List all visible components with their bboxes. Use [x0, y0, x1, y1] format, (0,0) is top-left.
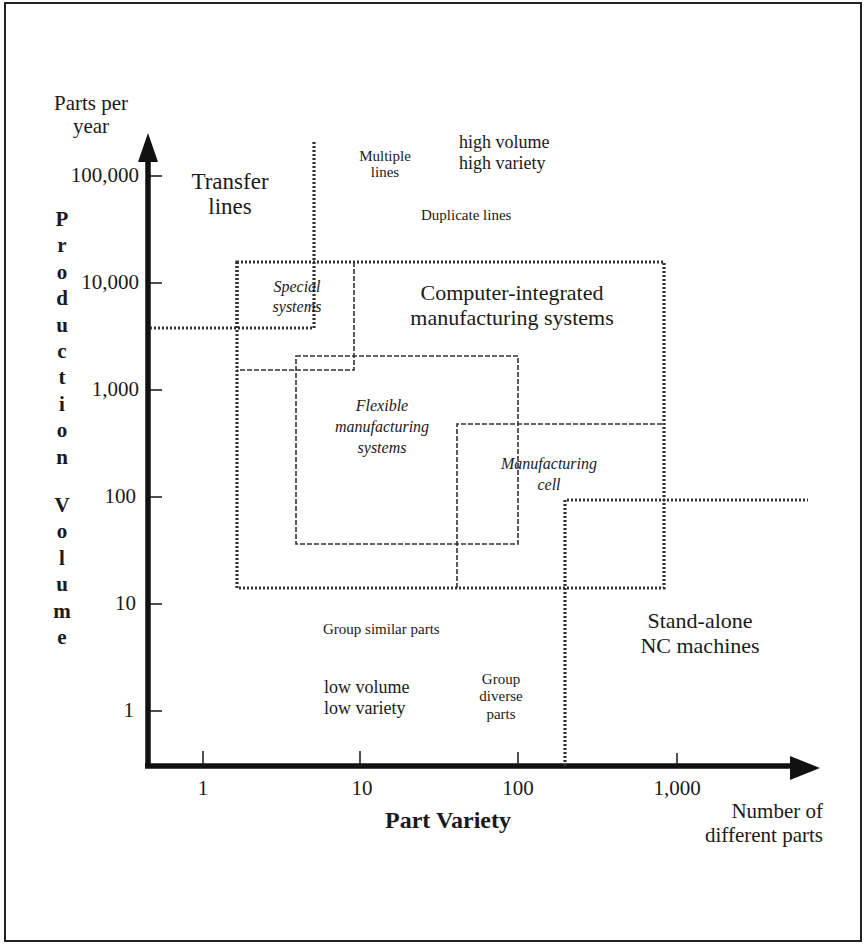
y-axis-title: P r o d u c t i o n V o l u m e — [52, 206, 72, 651]
y-tick-label: 10 — [115, 592, 136, 615]
y-axis-unit-label: Parts per year — [54, 92, 128, 137]
y-unit-line1: Parts per — [54, 92, 128, 115]
x-tick-label: 10 — [352, 777, 373, 800]
group-diverse-parts-label: Group diverse parts — [479, 671, 522, 723]
x-axis-arrow-icon — [790, 756, 820, 780]
group-similar-parts-label: Group similar parts — [323, 621, 440, 638]
mfg-cell-label: Manufacturing cell — [501, 454, 597, 496]
fms-label: Flexible manufacturing systems — [335, 396, 429, 458]
y-tick-label: 100,000 — [71, 164, 139, 187]
high-volume-high-variety-label: high volume high variety — [459, 132, 550, 173]
x-axis-title: Part Variety — [385, 807, 511, 833]
x-unit-line2: different parts — [705, 823, 823, 847]
y-tick-label: 100 — [105, 485, 137, 508]
y-tick-label: 1,000 — [92, 378, 139, 401]
mfg-cell-box — [457, 424, 664, 588]
x-axis — [145, 756, 820, 780]
low-volume-low-variety-label: low volume low variety — [324, 677, 410, 718]
y-ticks — [150, 176, 162, 711]
y-unit-line2: year — [54, 115, 128, 138]
x-tick-label: 100 — [502, 777, 534, 800]
x-tick-label: 1 — [198, 777, 209, 800]
transfer-lines-label: Transfer lines — [191, 169, 268, 220]
x-ticks — [203, 751, 677, 764]
stand-alone-nc-label: Stand-alone NC machines — [640, 608, 759, 659]
y-axis — [138, 133, 158, 766]
multiple-lines-label: Multiple lines — [359, 149, 411, 181]
x-unit-line1: Number of — [705, 799, 823, 823]
y-tick-label: 1 — [124, 699, 135, 722]
x-axis-unit-label: Number of different parts — [705, 799, 823, 847]
duplicate-lines-label: Duplicate lines — [421, 207, 511, 224]
cim-label: Computer-integrated manufacturing system… — [410, 280, 613, 330]
y-tick-label: 10,000 — [81, 271, 139, 294]
special-systems-label: Special systems — [273, 277, 322, 317]
y-axis-arrow-icon — [138, 133, 158, 162]
x-tick-label: 1,000 — [653, 777, 700, 800]
